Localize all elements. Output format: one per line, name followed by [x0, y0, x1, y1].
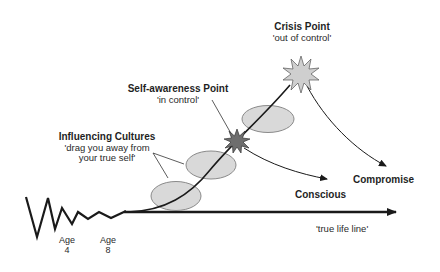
- age-4-label: Age 4: [56, 235, 78, 256]
- self-awareness-label: Self-awareness Point 'in control': [120, 83, 236, 105]
- influencing-cultures-label: Influencing Cultures 'drag you away from…: [52, 131, 162, 164]
- age-4-text: Age: [56, 235, 78, 245]
- compromise-arrow: [307, 86, 386, 166]
- influencing-cultures-title: Influencing Cultures: [52, 131, 162, 143]
- self-awareness-title: Self-awareness Point: [120, 83, 236, 95]
- culture-ellipse-1: [151, 182, 201, 211]
- age-4-value: 4: [56, 245, 78, 255]
- influencing-cultures-line2: your true self': [52, 153, 162, 164]
- self-awareness-subtitle: 'in control': [120, 95, 236, 106]
- age-8-text: Age: [97, 235, 119, 245]
- compromise-label: Compromise: [353, 174, 414, 186]
- crisis-point-title: Crisis Point: [260, 21, 344, 33]
- crisis-point-label: Crisis Point 'out of control': [260, 21, 344, 43]
- crisis-point-subtitle: 'out of control': [260, 33, 344, 44]
- true-life-line-label: 'true life line': [316, 224, 368, 235]
- age-8-value: 8: [97, 245, 119, 255]
- culture-ellipse-2: [186, 151, 236, 179]
- conscious-arrow: [244, 148, 327, 179]
- age-8-label: Age 8: [97, 235, 119, 256]
- early-life-zigzag: [26, 197, 126, 237]
- conscious-label: Conscious: [295, 189, 346, 201]
